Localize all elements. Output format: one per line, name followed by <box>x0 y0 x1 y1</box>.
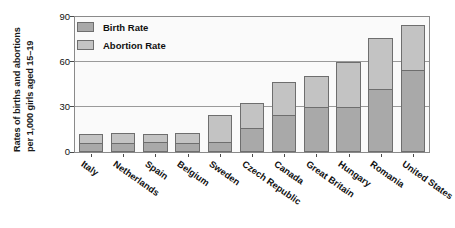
x-axis-labels: ItalyNetherlandsSpainBelgiumSwedenCzech … <box>75 154 429 228</box>
bar-segment-birth-rate <box>240 128 264 152</box>
bar-great-britain <box>304 76 328 153</box>
bar-segment-birth-rate <box>368 89 392 152</box>
bar-segment-birth-rate <box>175 143 199 152</box>
legend-swatch-abortion-rate <box>77 40 94 50</box>
x-tick-mark <box>123 154 124 157</box>
chart-legend: Birth Rate Abortion Rate <box>77 19 212 55</box>
x-axis-label-united-states: United States <box>401 159 455 201</box>
bar-italy <box>79 134 103 152</box>
bar-segment-abortion-rate <box>304 76 328 109</box>
bar-segment-abortion-rate <box>401 25 425 71</box>
y-tick-label-90: 90 <box>48 12 70 22</box>
x-tick-mark <box>220 154 221 157</box>
bar-segment-birth-rate <box>304 107 328 152</box>
bar-netherlands <box>111 133 135 153</box>
x-tick-mark <box>413 154 414 157</box>
bar-belgium <box>175 133 199 153</box>
bar-segment-abortion-rate <box>175 133 199 145</box>
bar-segment-birth-rate <box>401 70 425 153</box>
x-axis-label-romania: Romania <box>369 159 407 190</box>
bar-segment-birth-rate <box>336 107 360 152</box>
bar-romania <box>368 38 392 152</box>
x-axis-label-italy: Italy <box>79 159 100 178</box>
bar-czech-republic <box>240 103 264 153</box>
bar-sweden <box>208 115 232 153</box>
legend-label-abortion-rate: Abortion Rate <box>103 40 166 51</box>
legend-swatch-birth-rate <box>77 22 94 32</box>
bar-hungary <box>336 62 360 152</box>
x-tick-mark <box>188 154 189 157</box>
bar-segment-abortion-rate <box>272 82 296 116</box>
y-tick-label-0: 0 <box>48 147 70 157</box>
x-tick-mark <box>91 154 92 157</box>
bar-segment-birth-rate <box>79 143 103 152</box>
y-tick-label-60: 60 <box>48 57 70 67</box>
x-tick-mark <box>349 154 350 157</box>
bar-segment-birth-rate <box>143 142 167 153</box>
bar-segment-abortion-rate <box>240 103 264 130</box>
bar-canada <box>272 82 296 153</box>
y-axis-title: Rates of births and abortions per 1,000 … <box>0 0 34 160</box>
bar-segment-birth-rate <box>272 115 296 153</box>
y-axis-title-line-2: per 1,000 girls aged 15–19 <box>25 41 35 152</box>
x-axis-label-sweden: Sweden <box>208 159 243 187</box>
legend-label-birth-rate: Birth Rate <box>103 22 148 33</box>
x-tick-mark <box>381 154 382 157</box>
y-tick-label-30: 30 <box>48 102 70 112</box>
legend-item-abortion-rate: Abortion Rate <box>77 37 212 53</box>
bar-segment-birth-rate <box>111 143 135 152</box>
bar-segment-birth-rate <box>208 142 232 153</box>
bar-segment-abortion-rate <box>79 134 103 144</box>
y-axis-tick-labels: 90 60 30 0 <box>46 0 70 160</box>
bar-segment-abortion-rate <box>208 115 232 143</box>
x-tick-mark <box>284 154 285 157</box>
x-axis-label-belgium: Belgium <box>175 159 211 188</box>
x-tick-mark <box>252 154 253 157</box>
x-axis-label-czech-republic: Czech Republic <box>240 159 302 207</box>
legend-item-birth-rate: Birth Rate <box>77 19 212 35</box>
x-tick-mark <box>316 154 317 157</box>
x-axis-label-spain: Spain <box>143 159 169 182</box>
y-axis-title-line-1: Rates of births and abortions <box>12 27 22 152</box>
bar-segment-abortion-rate <box>143 134 167 143</box>
bar-segment-abortion-rate <box>368 38 392 90</box>
bar-spain <box>143 134 167 152</box>
bar-segment-abortion-rate <box>111 133 135 145</box>
bar-segment-abortion-rate <box>336 62 360 108</box>
bar-united-states <box>401 25 425 153</box>
x-tick-mark <box>155 154 156 157</box>
